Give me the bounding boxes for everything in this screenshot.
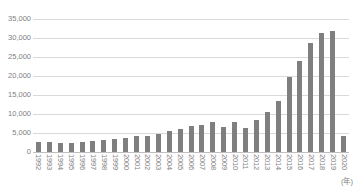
x-axis-tick-label: 1995 xyxy=(67,154,75,170)
bar xyxy=(58,143,63,153)
x-axis-tick-label: 2004 xyxy=(165,154,173,170)
bar xyxy=(145,136,150,152)
bar xyxy=(134,136,139,152)
bar xyxy=(308,43,313,152)
x-axis-tick-label: 2003 xyxy=(154,154,162,170)
bar xyxy=(123,138,128,152)
x-axis-tick-label: 2018 xyxy=(318,154,326,170)
x-axis-tick-label: 2014 xyxy=(274,154,282,170)
x-axis-tick-label: 2008 xyxy=(209,154,217,170)
y-axis-tick-label: 5,000 xyxy=(0,129,31,137)
plot-area xyxy=(33,19,349,152)
bar xyxy=(47,142,52,152)
x-axis-tick-label: 2000 xyxy=(122,154,130,170)
bar xyxy=(341,136,346,152)
bar xyxy=(319,33,324,152)
x-axis-tick-label: 2013 xyxy=(263,154,271,170)
x-axis-tick-label: 2001 xyxy=(133,154,141,170)
x-axis-tick-label: 1993 xyxy=(45,154,53,170)
x-axis-tick-label: 2016 xyxy=(296,154,304,170)
x-axis-tick-label: 1998 xyxy=(100,154,108,170)
bar xyxy=(189,126,194,152)
bar xyxy=(232,122,237,152)
x-axis-tick-label: 2012 xyxy=(252,154,260,170)
y-axis-tick-label: 30,000 xyxy=(0,34,31,42)
bar xyxy=(265,112,270,152)
y-axis-tick-label: 10,000 xyxy=(0,110,31,118)
bar xyxy=(243,128,248,152)
x-axis-tick-label: 1997 xyxy=(89,154,97,170)
bar xyxy=(221,127,226,152)
bar xyxy=(156,134,161,152)
x-axis-tick-label: 1994 xyxy=(56,154,64,170)
x-axis-tick-label: 2019 xyxy=(329,154,337,170)
y-axis-tick-labels: 05,00010,00015,00020,00025,00030,00035,0… xyxy=(0,0,31,187)
y-axis-tick-label: 20,000 xyxy=(0,72,31,80)
bar xyxy=(276,101,281,152)
bar xyxy=(330,31,335,152)
x-axis-tick-label: 1992 xyxy=(34,154,42,170)
bar xyxy=(210,122,215,152)
x-axis-tick-label: 2010 xyxy=(231,154,239,170)
y-axis-tick-label: 15,000 xyxy=(0,91,31,99)
x-axis-tick-label: 2011 xyxy=(241,154,249,169)
x-axis-tick-label: 2020 xyxy=(340,154,348,170)
x-axis-tick-label: 2017 xyxy=(307,154,315,170)
x-axis-tick-label: 1999 xyxy=(111,154,119,170)
x-axis-tick-label: 2006 xyxy=(187,154,195,170)
bar xyxy=(297,61,302,152)
x-axis-tick-label: 2007 xyxy=(198,154,206,170)
x-axis-tick-label: 2005 xyxy=(176,154,184,170)
bar xyxy=(167,131,172,152)
y-axis-tick-label: 25,000 xyxy=(0,53,31,61)
bar xyxy=(80,142,85,152)
gridline xyxy=(33,152,349,153)
x-axis-tick-labels: 1992199319941995199619971998199920002001… xyxy=(33,154,349,187)
y-axis-tick-label: 0 xyxy=(0,148,31,156)
bar xyxy=(69,143,74,152)
x-axis-tick-label: 2002 xyxy=(143,154,151,170)
bar xyxy=(287,77,292,152)
x-axis-unit-label: (年) xyxy=(341,178,353,186)
bar xyxy=(112,139,117,152)
bar xyxy=(36,142,41,152)
bar xyxy=(178,129,183,152)
bar xyxy=(101,140,106,152)
bar-series xyxy=(33,19,349,152)
bar xyxy=(90,141,95,152)
x-axis-tick-label: 1996 xyxy=(78,154,86,170)
x-axis-tick-label: 2009 xyxy=(220,154,228,170)
x-axis-tick-label: 2015 xyxy=(285,154,293,170)
y-axis-tick-label: 35,000 xyxy=(0,15,31,23)
bar xyxy=(199,125,204,152)
bar-chart: 05,00010,00015,00020,00025,00030,00035,0… xyxy=(0,0,355,187)
bar xyxy=(254,120,259,152)
